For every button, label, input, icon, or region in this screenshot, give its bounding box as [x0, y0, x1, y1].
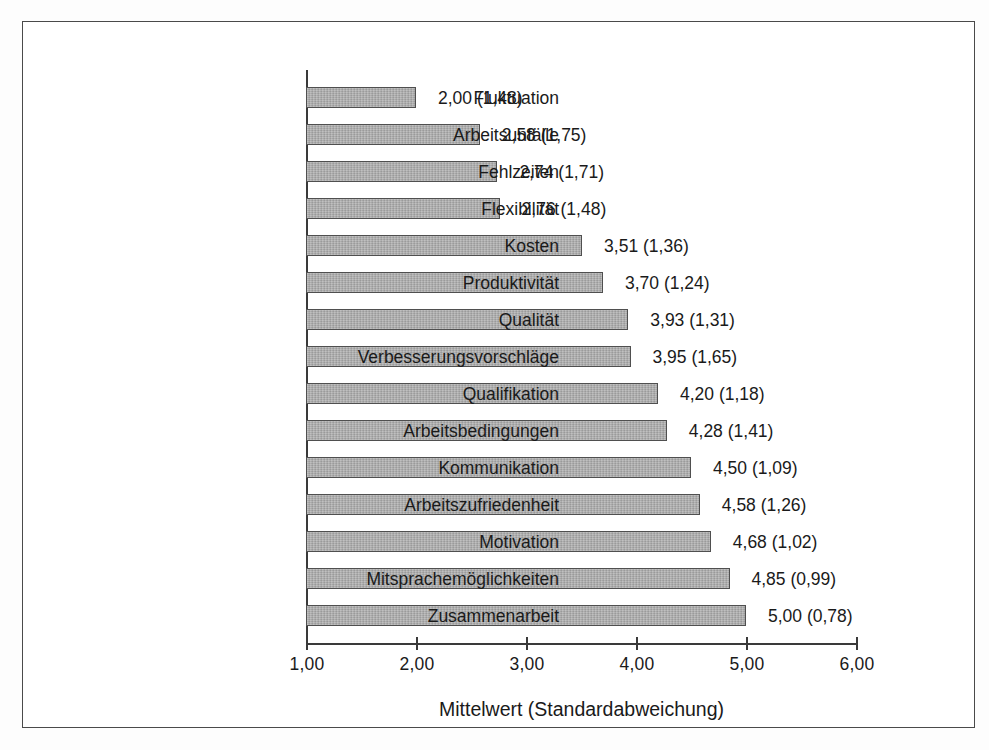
bar-row: Fluktuation2,00 (1,48) [306, 79, 856, 116]
bar-row: Qualifikation4,20 (1,18) [306, 375, 856, 412]
bar-row: Zusammenarbeit5,00 (0,78) [306, 597, 856, 634]
bar-row: Qualität3,93 (1,31) [306, 301, 856, 338]
x-axis-tick [856, 637, 858, 650]
value-label: 3,51 (1,36) [604, 236, 689, 256]
x-axis-tick-label: 5,00 [730, 654, 765, 675]
bar-flexibilität[interactable] [306, 198, 500, 219]
x-axis-tick-label: 2,00 [400, 654, 435, 675]
bar-row: Kommunikation4,50 (1,09) [306, 449, 856, 486]
figure-frame-border: Fluktuation2,00 (1,48)Arbeitsunfälle2,58… [22, 21, 975, 728]
category-label: Qualität [499, 310, 559, 330]
bar-qualität[interactable] [306, 309, 628, 330]
category-label: Arbeitsbedingungen [403, 421, 559, 441]
value-label: 4,85 (0,99) [752, 569, 837, 589]
value-label: 3,70 (1,24) [625, 273, 710, 293]
bar-fehlzeiten[interactable] [306, 161, 497, 182]
value-label: 4,58 (1,26) [722, 495, 807, 515]
value-label: 2,58 (1,75) [502, 125, 587, 145]
value-label: 2,00 (1,48) [438, 88, 523, 108]
x-axis-tick [746, 637, 748, 650]
x-axis-tick-label: 4,00 [620, 654, 655, 675]
bar-row: Fehlzeiten2,74 (1,71) [306, 153, 856, 190]
x-axis-tick-label: 6,00 [840, 654, 875, 675]
category-label: Motivation [479, 532, 559, 552]
category-label: Produktivität [463, 273, 559, 293]
category-label: Zusammenarbeit [428, 606, 559, 626]
value-label: 5,00 (0,78) [768, 606, 853, 626]
x-axis-tick [416, 637, 418, 650]
x-axis-tick [636, 637, 638, 650]
category-label: Kommunikation [438, 458, 559, 478]
bar-row: Kosten3,51 (1,36) [306, 227, 856, 264]
category-label: Kosten [505, 236, 559, 256]
bar-fluktuation[interactable] [306, 87, 416, 108]
bar-row: Flexibilität2,76 (1,48) [306, 190, 856, 227]
value-label: 2,76 (1,48) [522, 199, 607, 219]
category-label: Qualifikation [463, 384, 559, 404]
plot-area: Fluktuation2,00 (1,48)Arbeitsunfälle2,58… [306, 70, 856, 644]
value-label: 4,68 (1,02) [733, 532, 818, 552]
value-label: 4,28 (1,41) [689, 421, 774, 441]
bar-row: Verbesserungsvorschläge3,95 (1,65) [306, 338, 856, 375]
bar-row: Arbeitsbedingungen4,28 (1,41) [306, 412, 856, 449]
value-label: 3,93 (1,31) [650, 310, 735, 330]
x-axis-tick [526, 637, 528, 650]
bar-row: Produktivität3,70 (1,24) [306, 264, 856, 301]
bar-row: Mitsprachemöglichkeiten4,85 (0,99) [306, 560, 856, 597]
bar-row: Arbeitsunfälle2,58 (1,75) [306, 116, 856, 153]
figure-canvas: Fluktuation2,00 (1,48)Arbeitsunfälle2,58… [0, 0, 989, 750]
value-label: 2,74 (1,71) [519, 162, 604, 182]
x-axis-tick-label: 1,00 [290, 654, 325, 675]
bar-row: Motivation4,68 (1,02) [306, 523, 856, 560]
bar-row: Arbeitszufriedenheit4,58 (1,26) [306, 486, 856, 523]
value-label: 4,50 (1,09) [713, 458, 798, 478]
category-label: Verbesserungsvorschläge [358, 347, 559, 367]
x-axis-line [306, 643, 857, 645]
category-label: Mitsprachemöglichkeiten [366, 569, 559, 589]
x-axis-title: Mittelwert (Standardabweichung) [306, 698, 857, 721]
category-label: Arbeitszufriedenheit [404, 495, 559, 515]
x-axis-tick [306, 637, 308, 650]
value-label: 3,95 (1,65) [653, 347, 738, 367]
value-label: 4,20 (1,18) [680, 384, 765, 404]
x-axis-tick-label: 3,00 [510, 654, 545, 675]
